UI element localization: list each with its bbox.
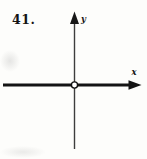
origin-open-point (71, 82, 77, 88)
x-axis-label: x (131, 67, 138, 77)
y-axis-label: y (80, 14, 87, 24)
x-axis-arrowhead-icon (129, 80, 142, 90)
coordinate-plane: y x (0, 0, 147, 159)
y-axis-arrowhead-icon (70, 12, 79, 25)
textbook-figure: 41. y x (0, 0, 147, 159)
